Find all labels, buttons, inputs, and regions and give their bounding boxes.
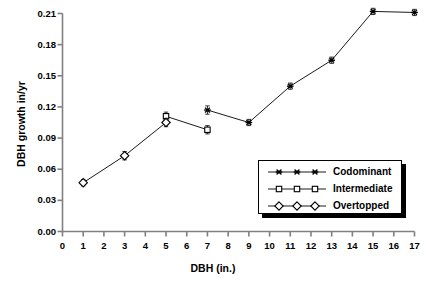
chart-legend: Codominant Intermediate Overtopped xyxy=(258,160,402,214)
y-tick-label: 0.06 xyxy=(20,163,56,174)
x-tick-label: 17 xyxy=(400,240,426,251)
legend-entry-intermediate: Intermediate xyxy=(259,180,401,198)
y-tick-label: 0.18 xyxy=(20,39,56,50)
y-tick-label: 0.09 xyxy=(20,132,56,143)
legend-marker-star-icon xyxy=(266,164,328,180)
legend-marker-square-icon xyxy=(266,181,328,197)
y-axis-title: DBH growth in/yr xyxy=(15,44,27,204)
chart-figure: DBH growth in/yr DBH (in.) 0.000.030.060… xyxy=(0,0,426,287)
y-tick-label: 0.15 xyxy=(20,70,56,81)
legend-entry-codominant: Codominant xyxy=(259,163,401,181)
legend-entry-overtopped: Overtopped xyxy=(259,197,401,215)
y-tick-label: 0.00 xyxy=(20,226,56,237)
legend-label-intermediate: Intermediate xyxy=(333,184,392,194)
x-axis-title: DBH (in.) xyxy=(0,262,426,274)
legend-label-overtopped: Overtopped xyxy=(333,201,389,211)
y-tick-label: 0.12 xyxy=(20,101,56,112)
series-overtopped xyxy=(79,118,170,187)
legend-label-codominant: Codominant xyxy=(333,167,391,177)
series-codominant xyxy=(204,8,418,125)
y-tick-label: 0.03 xyxy=(20,194,56,205)
legend-marker-diamond-icon xyxy=(266,198,328,214)
y-tick-label: 0.21 xyxy=(20,8,56,19)
